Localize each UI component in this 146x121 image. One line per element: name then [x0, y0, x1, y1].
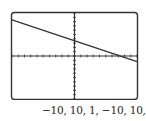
- window-settings-label: −10, 10, 1, −10, 10, 1: [42, 104, 146, 116]
- y-axis: [73, 13, 76, 99]
- calculator-graph-screen: [0, 0, 146, 100]
